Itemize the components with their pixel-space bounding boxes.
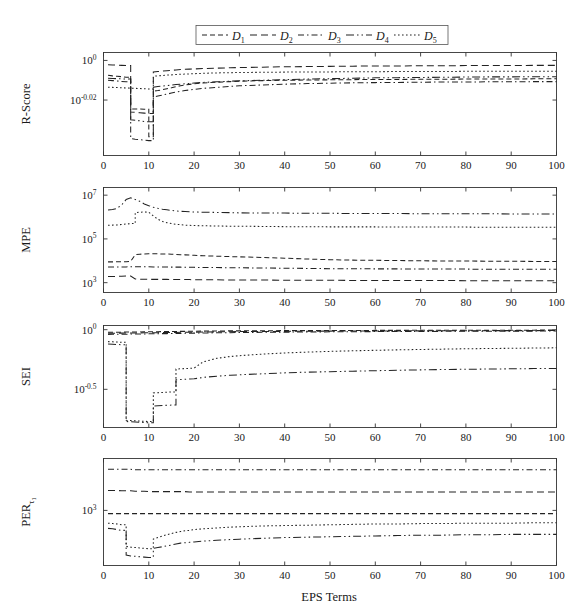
y-tick-label: 100 [82, 322, 97, 336]
x-tick-label: 10 [143, 569, 155, 581]
plot-frame [104, 326, 557, 428]
x-tick-label: 70 [415, 569, 427, 581]
x-tick-label: 90 [506, 431, 518, 443]
panel-r-score: 010203040506070809010010010-0.02R-Score [19, 53, 565, 172]
x-tick-label: 60 [370, 296, 382, 308]
figure-canvas: D1D2D3D4D5 010203040506070809010010010-0… [0, 0, 577, 612]
panel-per: 0102030405060708090100103PERτ1 [19, 459, 565, 582]
multi-panel-figure: D1D2D3D4D5 010203040506070809010010010-0… [0, 0, 577, 612]
x-tick-label: 60 [370, 431, 382, 443]
x-tick-label: 40 [279, 296, 291, 308]
y-tick-label: 103 [82, 275, 97, 289]
series-line-d5 [108, 523, 556, 549]
series-line-d4 [108, 344, 556, 423]
series-line-d3 [108, 267, 556, 270]
x-tick-label: 70 [415, 159, 427, 171]
series-line-d2 [108, 276, 556, 281]
x-tick-label: 70 [415, 431, 427, 443]
y-axis-label: R-Score [19, 83, 33, 124]
y-tick-label: 10-0.02 [70, 93, 97, 107]
series-line-d4 [108, 198, 556, 214]
x-tick-label: 70 [415, 296, 427, 308]
x-tick-label: 100 [548, 159, 565, 171]
x-tick-label: 30 [234, 569, 246, 581]
x-tick-label: 50 [325, 431, 337, 443]
panel-mpe: 0102030405060708090100103105107MPE [19, 188, 565, 309]
x-tick-label: 10 [143, 296, 155, 308]
x-tick-label: 50 [325, 159, 337, 171]
x-tick-label: 0 [101, 569, 107, 581]
x-tick-label: 40 [279, 159, 291, 171]
series-line-d4 [108, 528, 556, 557]
legend: D1D2D3D4D5 [196, 26, 448, 45]
x-tick-label: 90 [506, 159, 518, 171]
x-tick-label: 30 [234, 159, 246, 171]
y-tick-label: 100 [82, 53, 97, 67]
x-tick-label: 100 [548, 569, 565, 581]
series-line-d3 [108, 80, 556, 140]
y-tick-label: 10-0.5 [74, 382, 97, 396]
y-axis-label: SEI [19, 367, 33, 386]
x-tick-label: 10 [143, 431, 155, 443]
x-tick-label: 20 [189, 159, 201, 171]
x-tick-label: 0 [101, 431, 107, 443]
x-tick-label: 40 [279, 569, 291, 581]
series-line-d2 [108, 490, 556, 492]
x-tick-label: 100 [548, 296, 565, 308]
x-tick-label: 90 [506, 569, 518, 581]
plot-frame [104, 53, 557, 156]
x-axis-label: EPS Terms [301, 590, 357, 604]
y-tick-label: 105 [82, 231, 97, 245]
plot-frame [104, 459, 557, 566]
panels-container: 010203040506070809010010010-0.02R-Score0… [19, 53, 565, 582]
x-tick-label: 10 [143, 159, 155, 171]
x-tick-label: 80 [460, 569, 472, 581]
x-tick-label: 80 [460, 159, 472, 171]
panel-sei: 010203040506070809010010010-0.5SEI [19, 322, 565, 443]
y-tick-label: 107 [82, 188, 97, 202]
x-tick-label: 80 [460, 431, 472, 443]
x-tick-label: 0 [101, 296, 107, 308]
x-tick-label: 0 [101, 159, 107, 171]
y-axis-label: PERτ1 [19, 497, 37, 527]
x-tick-label: 30 [234, 431, 246, 443]
x-tick-label: 60 [370, 569, 382, 581]
y-axis-label: MPE [19, 227, 33, 253]
x-tick-label: 20 [189, 569, 201, 581]
x-tick-label: 50 [325, 569, 337, 581]
series-line-d1 [108, 254, 556, 262]
y-tick-label: 103 [82, 503, 97, 517]
plot-frame [104, 188, 557, 293]
x-tick-label: 60 [370, 159, 382, 171]
x-tick-label: 20 [189, 431, 201, 443]
x-tick-label: 80 [460, 296, 472, 308]
x-tick-label: 50 [325, 296, 337, 308]
x-axis-label-group: EPS Terms [301, 590, 357, 604]
x-tick-label: 90 [506, 296, 518, 308]
x-tick-label: 20 [189, 296, 201, 308]
x-tick-label: 40 [279, 431, 291, 443]
x-tick-label: 30 [234, 296, 246, 308]
series-line-d5 [108, 342, 556, 422]
series-line-d5 [108, 212, 556, 227]
x-tick-label: 100 [548, 431, 565, 443]
